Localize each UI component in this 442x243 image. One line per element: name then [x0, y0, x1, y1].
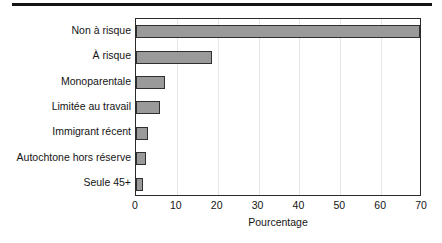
category-label: Immigrant récent [1, 126, 131, 137]
category-label: À risque [1, 50, 131, 61]
bar [136, 152, 146, 165]
plot-area [135, 18, 421, 196]
bar-row [136, 172, 422, 197]
x-tick-label: 0 [132, 199, 138, 211]
x-axis-title: Pourcentage [135, 216, 421, 228]
x-axis-tick-labels: 010203040506070 [135, 199, 421, 213]
x-tick-label: 20 [211, 199, 223, 211]
category-label: Non à risque [1, 25, 131, 36]
bar [136, 51, 212, 64]
x-tick-label: 10 [170, 199, 182, 211]
category-label: Autochtone hors réserve [1, 152, 131, 163]
x-tick-label: 70 [415, 199, 427, 211]
bar [136, 76, 165, 89]
bar-row [136, 19, 422, 44]
x-tick-label: 30 [252, 199, 264, 211]
chart-figure: Non à risqueÀ risqueMonoparentaleLimitée… [0, 0, 442, 243]
bar-row [136, 146, 422, 171]
bar [136, 101, 160, 114]
x-tick-label: 40 [293, 199, 305, 211]
category-label: Limitée au travail [1, 101, 131, 112]
bar-row [136, 44, 422, 69]
bar-row [136, 95, 422, 120]
bar-row [136, 121, 422, 146]
bar [136, 178, 143, 191]
category-label: Seule 45+ [1, 177, 131, 188]
y-axis-category-labels: Non à risqueÀ risqueMonoparentaleLimitée… [0, 18, 131, 196]
x-tick-label: 50 [333, 199, 345, 211]
category-label: Monoparentale [1, 76, 131, 87]
bar [136, 127, 148, 140]
bar [136, 25, 420, 38]
bar-row [136, 70, 422, 95]
header-divider-rule [12, 3, 432, 6]
x-tick-label: 60 [374, 199, 386, 211]
